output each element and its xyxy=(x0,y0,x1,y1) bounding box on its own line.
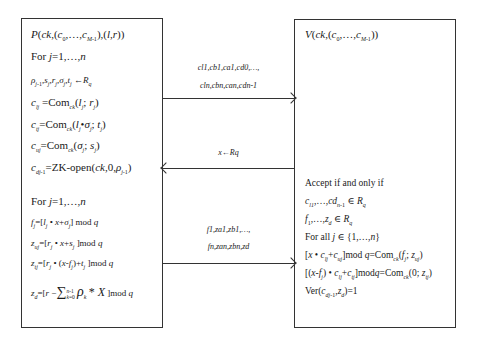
arrow-1-label-line1: cl1,cb1,ca1,cd0,…, xyxy=(163,63,294,72)
verifier-accept: Accept if and only if xyxy=(305,178,384,189)
prover-ztj: ztj=[rj • (x-fj)+tj ]mod q xyxy=(31,258,113,273)
prover-loop-2: For j=1,…,n xyxy=(31,196,86,207)
verifier-eq-2: [(x-fj) • clj+ctj]modq=Comck(0; ztj) xyxy=(305,268,432,283)
prover-clj: clj =Comck(lj; rj) xyxy=(31,97,99,113)
prover-zd: zd=[r −∑n-1k=0 ρk * X ]mod q xyxy=(31,284,133,305)
arrow-3-label-line1: f1,za1,zb1,…, xyxy=(163,225,294,234)
verifier-eq-1: [x • clj+cuj]mod q=Comck(fj; zuj) xyxy=(305,250,423,265)
prover-fj: fj=[lj • x+σj] mod q xyxy=(31,217,98,232)
prover-cuj: cuj=Comck(σj; sj) xyxy=(31,140,100,156)
arrow-responses-right xyxy=(163,263,294,264)
arrow-commitments-right xyxy=(163,98,294,99)
prover-ctj: ctj=Comck(lj•σj; tj) xyxy=(31,119,106,135)
arrow-challenge-left xyxy=(163,168,294,169)
verifier-check-c: cl1,…,cdn-1 ∈ Rq xyxy=(305,196,366,211)
verifier-check-f: f1,…,zd ∈ Rq xyxy=(305,214,352,229)
arrow-1-label-line2: cln,cbn,can,cdn-1 xyxy=(163,81,294,90)
verifier-ver: Ver(cdj-1,zd)=1 xyxy=(305,286,358,301)
arrow-2-label: x←Rq xyxy=(163,148,294,157)
arrow-3-label-line2: fn,zan,zbn,zd xyxy=(163,242,294,251)
verifier-title: V(ck,(c0,…,cM-1)) xyxy=(305,29,378,45)
prover-zuj: zuj=[rj • x+sj ]mod q xyxy=(31,238,102,253)
prover-title: P(ck,(c0,…,cM-1),(l,r)) xyxy=(31,29,124,45)
prover-sample: ρj-1,sj,rj,σj,tj ←Rq xyxy=(31,75,91,90)
verifier-for-all: For all j ∈ {1,…,n} xyxy=(305,232,380,243)
prover-cdj: cdj-1=ZK-open(ck,0,ρj-1) xyxy=(31,162,132,178)
prover-loop-1: For j=1,…,n xyxy=(31,51,86,62)
